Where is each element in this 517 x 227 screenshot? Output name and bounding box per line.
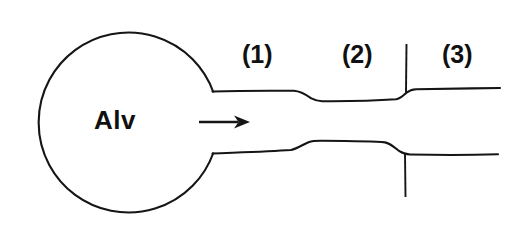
airway-diagram-canvas [0, 0, 517, 227]
lower-airway-wall [213, 141, 499, 155]
segment-label-3: (3) [442, 40, 473, 69]
alveolus-label: Alv [94, 105, 136, 136]
segment-label-2: (2) [342, 40, 373, 69]
airway-diagram: Alv (1) (2) (3) [0, 0, 517, 227]
segment-label-1: (1) [242, 40, 273, 69]
segment-3-lower-tick-icon [405, 154, 406, 198]
upper-airway-wall [213, 88, 501, 101]
segment-3-upper-tick-icon [406, 44, 407, 93]
